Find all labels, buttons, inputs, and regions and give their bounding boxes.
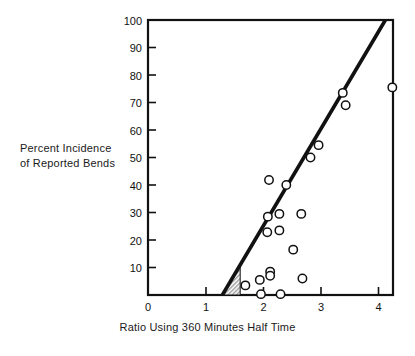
data-point: [297, 210, 305, 218]
data-point: [282, 181, 290, 189]
scatter-plot: 100 90 80 70 60 50 40 30 20 10 0 1 2 3 4: [0, 0, 415, 356]
data-point: [341, 101, 349, 109]
x-tick-label-3: 3: [318, 301, 324, 313]
data-point: [241, 281, 249, 289]
data-point: [257, 290, 265, 298]
y-axis-label: Percent Incidence of Reported Bends: [20, 141, 115, 171]
data-point: [264, 212, 272, 220]
y-tick-label-10: 10: [130, 262, 142, 274]
data-point: [276, 290, 284, 298]
y-tick-label-90: 90: [130, 42, 142, 54]
data-point: [256, 276, 264, 284]
y-tick-label-70: 70: [130, 97, 142, 109]
x-tick-label-0: 0: [145, 301, 151, 313]
data-point: [265, 176, 273, 184]
y-tick-label-50: 50: [130, 152, 142, 164]
chart-figure: 100 90 80 70 60 50 40 30 20 10 0 1 2 3 4: [0, 0, 415, 356]
data-point: [266, 272, 274, 280]
data-point: [339, 89, 347, 97]
x-tick-label-4: 4: [375, 301, 381, 313]
x-tick-label-1: 1: [203, 301, 209, 313]
data-point: [298, 274, 306, 282]
y-axis-label-line2: of Reported Bends: [20, 156, 115, 171]
y-axis-label-line1: Percent Incidence: [20, 141, 115, 156]
y-tick-label-80: 80: [130, 70, 142, 82]
x-axis-label: Ratio Using 360 Minutes Half Time: [0, 320, 415, 335]
y-tick-label-30: 30: [130, 207, 142, 219]
y-tick-label-100: 100: [124, 15, 142, 27]
data-point: [314, 141, 322, 149]
y-tick-label-20: 20: [130, 235, 142, 247]
data-point: [275, 210, 283, 218]
data-point: [306, 153, 314, 161]
x-tick-label-2: 2: [260, 301, 266, 313]
data-point: [263, 228, 271, 236]
data-point: [289, 245, 297, 253]
y-tick-label-40: 40: [130, 180, 142, 192]
y-tick-label-60: 60: [130, 125, 142, 137]
data-point: [388, 83, 396, 91]
data-point: [275, 226, 283, 234]
